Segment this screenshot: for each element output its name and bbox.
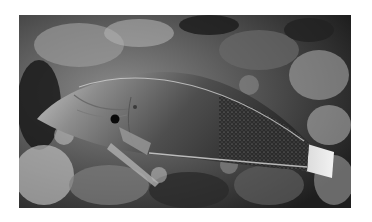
fish-eye <box>111 115 120 124</box>
fish-photo <box>19 15 351 208</box>
photo-canvas <box>19 15 351 208</box>
